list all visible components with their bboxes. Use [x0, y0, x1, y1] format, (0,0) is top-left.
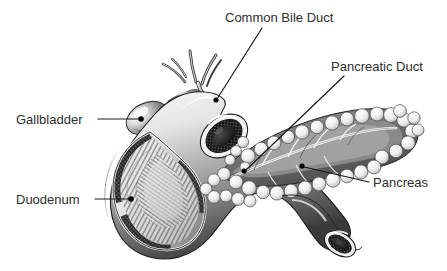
- duodenum-anchor-dot: [128, 196, 134, 202]
- label-pancreatic-duct: Pancreatic Duct: [331, 59, 423, 74]
- common-bile-duct-anchor-dot: [213, 97, 218, 102]
- common-bile-duct-leader: [217, 28, 262, 99]
- pancreatic-duct-anchor-dot: [241, 168, 246, 173]
- gallbladder-anchor-dot: [138, 116, 144, 122]
- label-pancreas: Pancreas: [373, 175, 428, 190]
- label-common-bile-duct: Common Bile Duct: [225, 10, 334, 25]
- label-gallbladder: Gallbladder: [16, 112, 83, 127]
- anatomy-diagram: Common Bile Duct Pancreatic Duct Pancrea…: [0, 0, 447, 271]
- pancreas-anchor-dot: [299, 163, 304, 168]
- label-duodenum: Duodenum: [16, 192, 80, 207]
- anatomy-illustration: Common Bile Duct Pancreatic Duct Pancrea…: [0, 0, 447, 271]
